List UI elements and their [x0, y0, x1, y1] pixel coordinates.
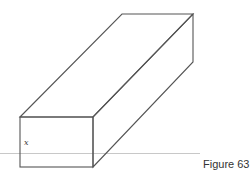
- prism-front-face: [20, 117, 93, 167]
- rectangular-prism: [20, 14, 193, 167]
- figure-caption: Figure 63: [203, 158, 249, 170]
- dimension-label-x: x: [24, 138, 29, 147]
- prism-right-face: [93, 14, 193, 167]
- figure-canvas: x Figure 63: [0, 0, 250, 181]
- prism-top-face: [20, 14, 193, 117]
